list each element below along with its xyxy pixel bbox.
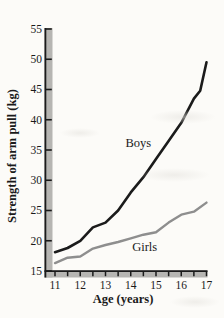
chart-canvas: 15202530354045505511121314151617BoysGirl…	[0, 0, 224, 318]
y-tick-label: 50	[31, 53, 43, 65]
y-tick-label: 30	[31, 174, 43, 186]
series-label-girls: Girls	[132, 240, 157, 254]
y-tick-label: 15	[31, 265, 43, 277]
x-tick-label: 11	[49, 279, 60, 291]
y-axis-title: Strength of arm pull (kg)	[5, 89, 19, 223]
y-tick-label: 25	[31, 204, 43, 216]
y-tick-label: 40	[31, 114, 43, 126]
x-tick-label: 17	[201, 279, 213, 291]
girls-line	[55, 203, 207, 264]
y-tick-label: 35	[31, 144, 43, 156]
boys-line	[55, 62, 207, 252]
x-tick-label: 13	[100, 279, 112, 291]
y-tick-label: 55	[31, 23, 43, 35]
y-tick-label: 20	[31, 235, 43, 247]
figure-strength-vs-age: 15202530354045505511121314151617BoysGirl…	[0, 0, 224, 318]
x-tick-label: 16	[176, 279, 188, 291]
x-tick-label: 12	[75, 279, 87, 291]
y-tick-label: 45	[31, 83, 43, 95]
x-axis-title: Age (years)	[93, 292, 154, 306]
chart-generated: 15202530354045505511121314151617BoysGirl…	[31, 23, 213, 291]
series-label-boys: Boys	[125, 136, 151, 150]
x-tick-label: 15	[150, 279, 162, 291]
x-tick-label: 14	[125, 279, 137, 291]
